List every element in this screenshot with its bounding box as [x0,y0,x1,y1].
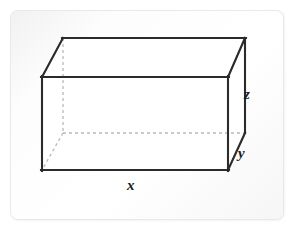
figure-canvas: x y z [0,0,296,232]
dimension-label-x: x [127,178,135,193]
dimension-label-y: y [238,146,245,161]
dimension-label-z: z [244,87,250,102]
front-face [42,77,228,170]
top-face [42,38,245,77]
rectangular-prism-svg [0,0,296,232]
